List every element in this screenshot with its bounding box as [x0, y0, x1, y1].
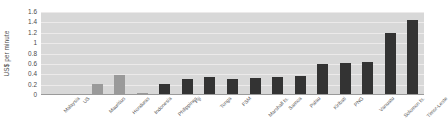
y-tick-label: 0.6 — [28, 61, 37, 67]
x-tick-label: Mauritius — [108, 96, 126, 114]
x-tick-label: Honduras — [131, 96, 150, 115]
y-tick-label: 0 — [33, 92, 37, 98]
y-tick-label: 0.4 — [28, 71, 37, 77]
x-tick-label: PNG — [353, 96, 364, 107]
bar — [182, 79, 193, 95]
plot-area — [41, 12, 424, 95]
x-tick-label: Palau — [309, 96, 322, 109]
y-tick-label: 0.8 — [28, 50, 37, 56]
x-tick-label: Samoa — [287, 96, 302, 111]
bar — [114, 75, 125, 95]
bar — [295, 76, 306, 95]
y-tick-label: 0.2 — [28, 81, 37, 87]
x-tick-label: Fiji — [194, 96, 202, 104]
bars-layer — [41, 12, 424, 95]
x-tick-label: Tonga — [219, 96, 232, 109]
x-tick-label: Timor-Leste — [426, 96, 448, 119]
x-tick-label: US — [82, 96, 91, 105]
x-axis-line — [41, 94, 424, 95]
bar — [385, 33, 396, 95]
y-tick-label: 1.4 — [28, 19, 37, 25]
bar — [362, 62, 373, 95]
y-axis-title-label: US$ per minute — [4, 31, 11, 77]
bar — [250, 78, 261, 95]
y-axis-title: US$ per minute — [0, 12, 14, 95]
x-tick-label: Kiribati — [332, 96, 347, 111]
y-tick-label: 1.6 — [28, 9, 37, 15]
x-axis-tick-labels: MalaysiaUSMauritiusHondurasIndonesiaPhil… — [41, 96, 424, 133]
bar — [317, 64, 328, 95]
bar — [227, 79, 238, 95]
x-tick-label: FSM — [241, 96, 252, 107]
y-tick-label: 1 — [33, 40, 37, 46]
x-tick-label: Indonesia — [154, 96, 173, 115]
y-axis-tick-labels: 1.61.41.210.80.60.40.20 — [14, 12, 39, 95]
bar — [340, 63, 351, 95]
x-tick-label: Solomon Is. — [403, 96, 426, 119]
x-tick-label: Vanuatu — [378, 96, 395, 113]
y-tick-label: 1.2 — [28, 30, 37, 36]
bar — [204, 77, 215, 95]
bar — [407, 20, 418, 95]
bar — [272, 77, 283, 95]
x-tick-label: Malaysia — [63, 96, 81, 114]
